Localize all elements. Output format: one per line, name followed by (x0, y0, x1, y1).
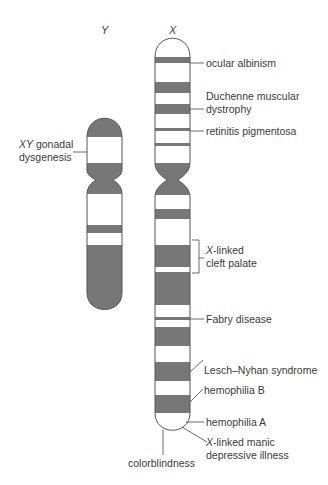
label-cleft-rest: -linked (213, 244, 244, 256)
label-xy-rest: gonadal (33, 138, 73, 150)
y-chromosome-title: Y (101, 24, 108, 36)
label-x-linked-manic-depressive: X-linked manic depressive illness (206, 436, 289, 462)
label-hemophilia-b: hemophilia B (204, 384, 265, 397)
label-retinitis-pigmentosa: retinitis pigmentosa (206, 125, 296, 138)
label-x-linked-cleft-palate: X-linked cleft palate (206, 244, 257, 270)
label-hemophilia-a: hemophilia A (206, 416, 266, 429)
label-manic-rest: -linked manic (213, 436, 275, 448)
label-cleft-line2: cleft palate (206, 257, 257, 269)
label-duchenne-line2: dystrophy (206, 103, 252, 115)
label-xy-gonadal-dysgenesis: XY gonadal dysgenesis (19, 138, 73, 164)
label-lesch-nyhan: Lesch–Nyhan syndrome (204, 364, 317, 377)
label-xy-prefix: XY (19, 138, 33, 150)
label-colorblindness: colorblindness (128, 457, 195, 470)
x-chromosome (150, 38, 195, 430)
chromosome-diagram (0, 0, 328, 485)
label-ocular-albinism: ocular albinism (206, 57, 276, 70)
y-chromosome (80, 110, 130, 315)
label-duchenne-line1: Duchenne muscular (206, 90, 299, 102)
label-fabry-disease: Fabry disease (206, 313, 272, 326)
x-chromosome-title: X (169, 24, 176, 36)
label-duchenne: Duchenne muscular dystrophy (206, 90, 299, 116)
label-cleft-prefix: X (206, 244, 213, 256)
label-manic-line2: depressive illness (206, 449, 289, 461)
label-xy-line2: dysgenesis (19, 151, 72, 163)
label-manic-prefix: X (206, 436, 213, 448)
